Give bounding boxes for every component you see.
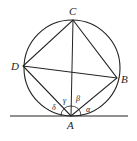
angle-label-beta: β: [76, 95, 80, 103]
geometry-diagram: C D B A δ γ β α: [0, 0, 137, 141]
angle-arc-gamma: [64, 106, 71, 109]
diagonal-ac: [71, 20, 73, 116]
point-label-d: D: [11, 61, 19, 72]
point-label-b: B: [121, 74, 128, 85]
angle-label-alpha: α: [86, 106, 90, 114]
point-label-a: A: [67, 120, 74, 131]
angle-label-gamma: γ: [63, 97, 66, 105]
angle-label-delta: δ: [52, 104, 56, 112]
diagonal-db: [23, 66, 117, 78]
point-label-c: C: [69, 6, 76, 17]
angle-arc-beta: [71, 106, 78, 109]
